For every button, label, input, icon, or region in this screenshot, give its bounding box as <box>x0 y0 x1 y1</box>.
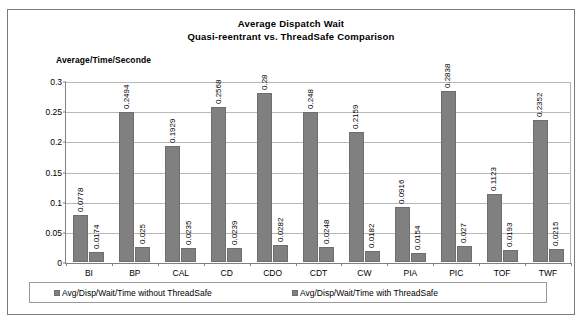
bar-value-label: 0.2568 <box>214 80 223 104</box>
y-axis-tick-label: 0.05 <box>45 228 62 238</box>
bar-value-label: 0.0239 <box>230 220 239 244</box>
bar[interactable]: 0.0174 <box>89 252 104 262</box>
bar-value-label: 0.0174 <box>92 224 101 248</box>
bar[interactable]: 0.027 <box>457 246 472 262</box>
bar[interactable]: 0.0248 <box>319 247 334 262</box>
bar-group: 0.280.0282 <box>257 81 288 262</box>
y-axis-tick <box>63 232 66 233</box>
y-axis-tick-label: 0.2 <box>50 137 62 147</box>
y-axis-tick <box>63 112 66 113</box>
y-axis-tick-label: 0.15 <box>45 168 62 178</box>
x-axis-category-label: BI <box>85 268 93 278</box>
x-axis-category-label: PIA <box>403 268 417 278</box>
plot-area: 0.30.250.20.150.10.050 0.07780.0174BI0.2… <box>65 82 571 264</box>
x-axis-category-label: CAL <box>172 268 189 278</box>
x-axis-tick <box>112 263 113 266</box>
bar-value-label: 0.0248 <box>322 220 331 244</box>
legend-entry[interactable]: Avg/Disp/Wait/Time with ThreadSafe <box>292 288 438 298</box>
bar-group: 0.21590.0182 <box>349 81 380 262</box>
bar-group: 0.24940.025 <box>119 81 150 262</box>
y-axis-tick-label: 0 <box>57 258 62 268</box>
chart-legend: Avg/Disp/Wait/Time without ThreadSafeAvg… <box>29 282 547 303</box>
x-axis-tick <box>341 263 342 266</box>
bar-value-label: 0.0778 <box>76 188 85 212</box>
bar[interactable]: 0.0154 <box>411 253 426 262</box>
x-axis-category-label: CD <box>221 268 233 278</box>
x-axis-tick <box>250 263 251 266</box>
bar[interactable]: 0.1929 <box>165 146 180 262</box>
bar[interactable]: 0.2159 <box>349 132 364 262</box>
chart-subtitle: Quasi-reentrant vs. ThreadSafe Compariso… <box>8 30 574 43</box>
bar[interactable]: 0.2352 <box>533 120 548 262</box>
y-axis-tick <box>63 142 66 143</box>
x-axis-tick <box>433 263 434 266</box>
bar[interactable]: 0.1123 <box>487 194 502 262</box>
bar[interactable]: 0.0282 <box>273 245 288 262</box>
bar-value-label: 0.0916 <box>397 179 406 203</box>
x-axis-category-label: CW <box>357 268 371 278</box>
y-axis-tick-label: 0.1 <box>50 198 62 208</box>
chart-title: Average Dispatch Wait <box>8 17 574 30</box>
bar[interactable]: 0.2568 <box>211 107 226 262</box>
bar-group: 0.11230.0193 <box>487 81 518 262</box>
gridline <box>66 263 571 264</box>
x-axis-tick <box>66 263 67 266</box>
bar[interactable]: 0.0239 <box>227 248 242 262</box>
x-axis-tick <box>387 263 388 266</box>
y-axis-tick <box>63 172 66 173</box>
bar-value-label: 0.2352 <box>535 93 544 117</box>
x-axis-category-label: TWF <box>539 268 557 278</box>
bar-value-label: 0.248 <box>306 89 315 109</box>
bar[interactable]: 0.0215 <box>549 249 564 262</box>
bar[interactable]: 0.2494 <box>119 112 134 262</box>
x-axis-tick <box>479 263 480 266</box>
legend-label: Avg/Disp/Wait/Time with ThreadSafe <box>300 288 438 298</box>
bar[interactable]: 0.0235 <box>181 248 196 262</box>
bar-value-label: 0.2838 <box>443 63 452 87</box>
bar-value-label: 0.0282 <box>276 218 285 242</box>
bar[interactable]: 0.28 <box>257 93 272 262</box>
bar[interactable]: 0.0193 <box>503 250 518 262</box>
bar-value-label: 0.027 <box>459 223 468 243</box>
bar[interactable]: 0.248 <box>303 112 318 262</box>
bar-group: 0.28380.027 <box>441 81 472 262</box>
bar-group: 0.23520.0215 <box>533 81 564 262</box>
bar-value-label: 0.0193 <box>505 223 514 247</box>
bar-value-label: 0.2494 <box>122 84 131 108</box>
bar-value-label: 0.1929 <box>168 118 177 142</box>
bar-group: 0.09160.0154 <box>395 81 426 262</box>
legend-label: Avg/Disp/Wait/Time without ThreadSafe <box>62 288 212 298</box>
bar[interactable]: 0.025 <box>135 247 150 262</box>
bar-value-label: 0.025 <box>138 224 147 244</box>
bar[interactable]: 0.2838 <box>441 91 456 262</box>
y-axis-title: Average/Time/Seconde <box>56 55 151 65</box>
bar-group: 0.07780.0174 <box>73 81 104 262</box>
bar[interactable]: 0.0916 <box>395 207 410 262</box>
x-axis-tick <box>296 263 297 266</box>
bar-group: 0.19290.0235 <box>165 81 196 262</box>
legend-entry[interactable]: Avg/Disp/Wait/Time without ThreadSafe <box>54 288 212 298</box>
y-axis-tick-label: 0.25 <box>45 107 62 117</box>
bar-group: 0.25680.0239 <box>211 81 242 262</box>
bar[interactable]: 0.0778 <box>73 215 88 262</box>
chart-container: Average Dispatch Wait Quasi-reentrant vs… <box>7 9 575 315</box>
y-axis-tick-label: 0.3 <box>50 77 62 87</box>
legend-swatch-icon <box>54 290 60 296</box>
x-axis-tick <box>204 263 205 266</box>
bar-group: 0.2480.0248 <box>303 81 334 262</box>
y-axis-tick <box>63 202 66 203</box>
bar-value-label: 0.2159 <box>351 104 360 128</box>
x-axis-category-label: CDO <box>263 268 282 278</box>
legend-swatch-icon <box>292 290 298 296</box>
bar-value-label: 0.1123 <box>489 167 498 191</box>
bar[interactable]: 0.0182 <box>365 251 380 262</box>
x-axis-category-label: CDT <box>310 268 327 278</box>
y-axis-tick <box>63 82 66 83</box>
bar-value-label: 0.0215 <box>551 222 560 246</box>
chart-title-block: Average Dispatch Wait Quasi-reentrant vs… <box>8 17 574 43</box>
x-axis-tick <box>525 263 526 266</box>
bar-value-label: 0.28 <box>260 75 269 91</box>
x-axis-category-label: BP <box>129 268 140 278</box>
bar-value-label: 0.0235 <box>184 220 193 244</box>
x-axis-category-label: TOF <box>494 268 511 278</box>
